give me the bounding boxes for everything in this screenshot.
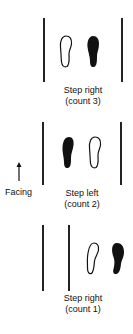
caption: Step left (count 2) — [57, 188, 107, 210]
caption-line-2: (count 3) — [58, 96, 108, 107]
caption-line-1: Step left — [57, 188, 107, 199]
boundary-line-right — [120, 122, 122, 185]
right-foot-filled-icon — [86, 35, 100, 68]
caption-line-2: (count 1) — [58, 304, 108, 315]
boundary-line-left — [42, 122, 44, 185]
right-foot-filled-icon — [111, 242, 125, 275]
left-foot-filled-icon — [61, 136, 75, 169]
caption-line-1: Step right — [58, 293, 108, 304]
up-arrow-icon — [16, 162, 22, 181]
left-foot-outline-icon — [86, 242, 100, 275]
left-foot-outline-icon — [59, 35, 73, 68]
caption-line-1: Step right — [58, 85, 108, 96]
caption: Step right (count 1) — [58, 293, 108, 315]
boundary-line-right — [121, 18, 123, 82]
right-foot-outline-icon — [88, 136, 102, 169]
boundary-line-left — [43, 18, 45, 82]
boundary-line-left — [42, 225, 44, 291]
boundary-line-middle — [68, 225, 70, 291]
caption-line-2: (count 2) — [57, 199, 107, 210]
caption: Step right (count 3) — [58, 85, 108, 107]
facing-label: Facing — [5, 187, 32, 198]
